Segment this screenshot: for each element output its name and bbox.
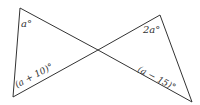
bowtie-triangle-diagram: a° (a + 10)° 2a° (a − 15)° [0,0,200,105]
right-top-angle-label: 2a° [142,24,160,35]
right-bottom-angle-label: (a − 15)° [136,64,177,92]
left-top-angle-label: a° [21,18,32,29]
